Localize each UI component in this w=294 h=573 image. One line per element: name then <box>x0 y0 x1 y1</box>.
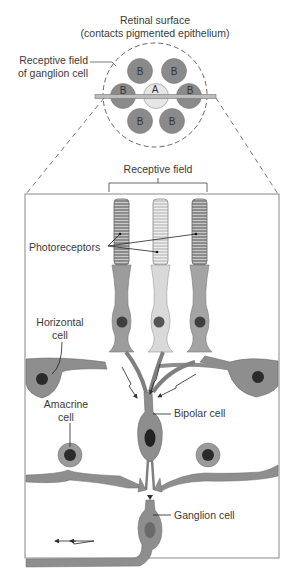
receptive-field-label: Receptive field <box>124 163 193 175</box>
bottom-panel: Receptive field Photoreceptors <box>25 163 279 567</box>
receptive-field-bracket <box>109 178 207 192</box>
svg-text:B: B <box>137 116 144 127</box>
svg-text:B: B <box>169 116 176 127</box>
ganglion-cell-label: Ganglion cell <box>174 509 235 521</box>
receptive-field-ganglion-label-1: Receptive field <box>19 54 88 66</box>
retinal-surface-title: Retinal surface <box>120 14 190 26</box>
bipolar-cell-label: Bipolar cell <box>174 407 225 419</box>
svg-text:B: B <box>137 66 144 77</box>
photoreceptors <box>109 199 212 352</box>
section-plane-bar <box>95 95 216 99</box>
retina-receptive-field-diagram: Retinal surface (contacts pigmented epit… <box>0 0 294 573</box>
center-cell-label: A <box>152 84 159 95</box>
retinal-surface-subtitle: (contacts pigmented epithelium) <box>81 27 230 39</box>
horizontal-cell-label-2: cell <box>52 329 68 341</box>
svg-text:B: B <box>171 66 178 77</box>
horizontal-cell-label-1: Horizontal <box>36 316 83 328</box>
amacrine-cell-label-2: cell <box>58 411 74 423</box>
receptive-field-ganglion-label-2: of ganglion cell <box>18 67 88 79</box>
amacrine-cell-label-1: Amacrine <box>44 398 89 410</box>
photoreceptors-label: Photoreceptors <box>29 241 100 253</box>
